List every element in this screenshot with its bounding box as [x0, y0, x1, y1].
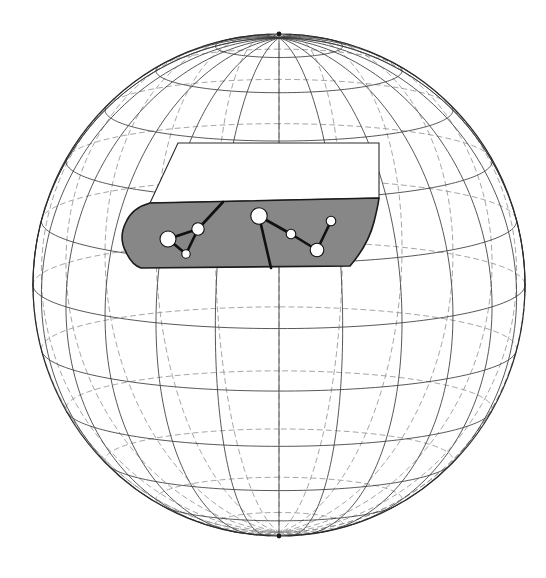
star-marker-s1 — [160, 231, 176, 247]
north-pole-marker — [277, 32, 282, 37]
star-marker-s7 — [326, 216, 336, 226]
star-marker-s3 — [182, 250, 190, 258]
shaded-sky-band — [122, 198, 379, 268]
celestial-sphere-diagram — [0, 0, 546, 578]
white-occlusion-panel — [150, 143, 379, 203]
figure-root — [0, 0, 546, 578]
canvas-background — [0, 0, 546, 578]
star-marker-s4 — [251, 208, 267, 224]
star-marker-s5 — [286, 229, 296, 239]
star-marker-s2 — [192, 223, 204, 235]
star-marker-s6 — [310, 243, 324, 257]
south-pole-marker — [277, 534, 282, 539]
